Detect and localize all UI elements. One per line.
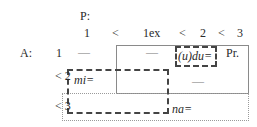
row-level-lt3: < 3	[55, 100, 71, 112]
header-item-lt-1: <	[112, 27, 119, 39]
cell-pr: Pr.	[226, 47, 239, 59]
header-item-lt-2: <	[179, 27, 186, 39]
header-item-3: 3	[237, 27, 243, 39]
cell-dash-3: —	[192, 75, 204, 87]
cell-dash-2: —	[146, 46, 158, 58]
cell-mi: mi=	[74, 74, 94, 86]
header-item-2: 2	[200, 27, 206, 39]
cell-dash-1: —	[78, 46, 90, 58]
cell-na: na=	[172, 103, 192, 115]
header-item-lt-3: <	[218, 27, 225, 39]
header-item-1: 1	[84, 27, 90, 39]
row-level-1: 1	[56, 47, 62, 59]
row-label-a: A:	[20, 47, 32, 59]
row-level-lt2: < 2	[55, 70, 71, 82]
header-item-1ex: 1ex	[143, 27, 160, 39]
cell-udu: (u)du=	[178, 50, 212, 62]
header-label: P:	[80, 10, 90, 22]
